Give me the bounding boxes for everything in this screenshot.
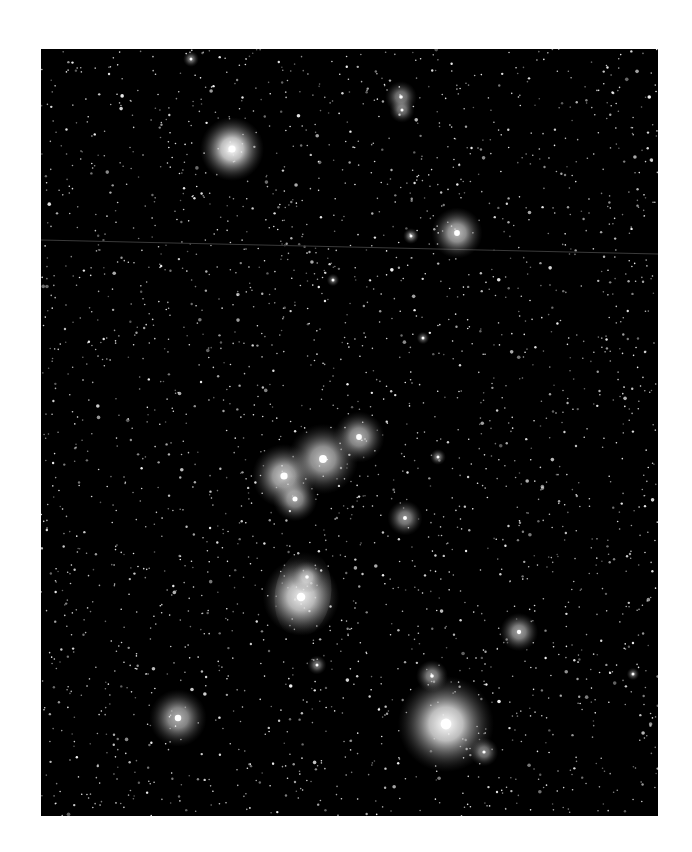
star-field-canvas — [41, 49, 658, 816]
star-field-photo — [41, 49, 658, 816]
